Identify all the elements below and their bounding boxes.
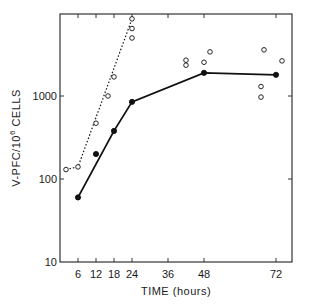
open-circle-marker (262, 48, 267, 53)
filled-circle-marker (75, 195, 80, 200)
open-circle-marker (112, 75, 117, 80)
x-tick-label: 72 (270, 268, 282, 280)
x-axis-title: TIME (hours) (141, 285, 211, 297)
open-circle-marker (94, 121, 99, 126)
x-tick-label: 12 (90, 268, 102, 280)
open-circle-marker (106, 94, 111, 99)
filled-circle-marker (201, 70, 206, 75)
series-lines (66, 19, 276, 198)
y-axis-ticks: 101001000 (33, 90, 292, 268)
y-tick-label: 1000 (33, 90, 57, 102)
y-axis-title-main: V-PFC/10 (10, 135, 22, 187)
x-tick-label: 18 (108, 268, 120, 280)
x-tick-label: 48 (198, 268, 210, 280)
open-circle-marker (184, 58, 189, 63)
open-circle-marker (130, 17, 135, 22)
open-circle-marker (202, 60, 207, 65)
series-0-line (66, 19, 132, 170)
open-circle-marker (259, 95, 264, 100)
filled-circle-marker (93, 151, 98, 156)
open-circle-marker (208, 50, 213, 55)
chart: 6121824364872 101001000 TIME (hours) V-P… (0, 0, 309, 305)
open-circle-marker (130, 26, 135, 31)
series-1-line (78, 73, 276, 198)
x-tick-label: 24 (126, 268, 138, 280)
open-circle-marker (259, 84, 264, 89)
filled-circle-marker (129, 99, 134, 104)
x-tick-label: 36 (162, 268, 174, 280)
plot-frame (60, 14, 292, 262)
y-tick-label: 100 (39, 173, 57, 185)
x-tick-label: 6 (75, 268, 81, 280)
open-circle-marker (130, 36, 135, 41)
y-axis-title: V-PFC/106 CELLS (8, 89, 22, 187)
y-tick-label: 10 (45, 256, 57, 268)
y-axis-title-tail: CELLS (10, 89, 22, 130)
filled-circle-marker (273, 72, 278, 77)
plot-border (60, 14, 292, 262)
filled-circle-marker (111, 128, 116, 133)
open-circle-marker (280, 59, 285, 64)
open-circle-marker (76, 165, 81, 170)
open-circle-marker (184, 63, 189, 68)
open-circle-marker (64, 167, 69, 172)
series-markers (64, 17, 285, 200)
